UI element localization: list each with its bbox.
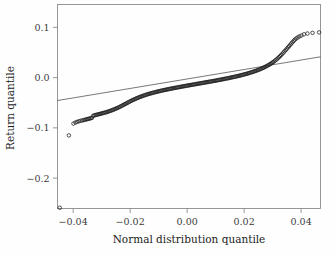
x-tick-label: 0.02: [234, 216, 255, 227]
y-axis-title: Return quantile: [4, 66, 16, 150]
qq-plot-figure: −0.04−0.020.000.020.04 0.10.0−0.1−0.2 No…: [0, 0, 336, 256]
x-tick-label: −0.02: [116, 216, 145, 227]
data-point: [58, 206, 62, 210]
x-tick-label: −0.04: [59, 216, 88, 227]
y-tick-label: 0.0: [34, 72, 49, 83]
reference-line: [58, 57, 321, 101]
data-point: [67, 134, 71, 138]
chart-canvas: −0.04−0.020.000.020.04 0.10.0−0.1−0.2 No…: [0, 0, 336, 256]
x-axis-title: Normal distribution quantile: [113, 233, 266, 245]
y-axis-tick-labels: 0.10.0−0.1−0.2: [26, 22, 49, 184]
y-tick-label: 0.1: [34, 22, 49, 33]
plot-frame: [58, 5, 321, 209]
data-point: [306, 32, 310, 36]
y-tick-label: −0.2: [26, 173, 49, 184]
x-axis-tick-labels: −0.04−0.020.000.020.04: [59, 216, 312, 227]
y-tick-label: −0.1: [26, 122, 49, 133]
x-tick-label: 0.00: [177, 216, 198, 227]
data-point: [311, 31, 315, 35]
x-axis-ticks: [73, 209, 301, 214]
x-tick-label: 0.04: [291, 216, 312, 227]
y-axis-ticks: [53, 27, 58, 178]
qq-reference-line: [58, 57, 321, 101]
data-points: [58, 31, 321, 210]
